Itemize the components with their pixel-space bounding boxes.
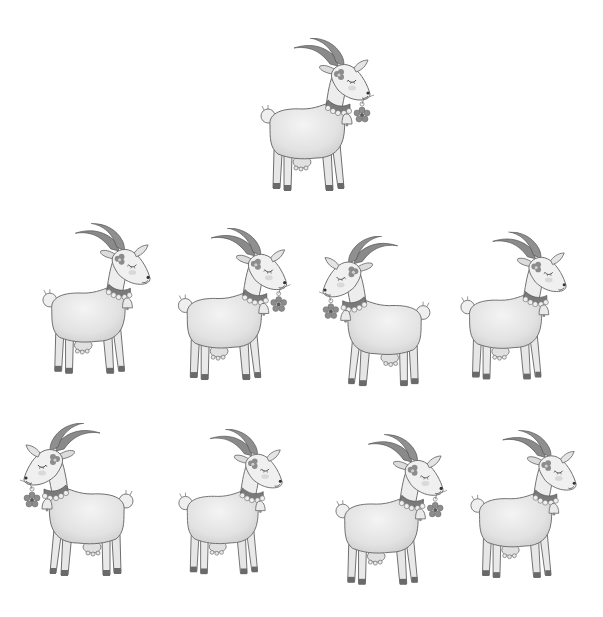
goat-row2-3 xyxy=(333,433,447,591)
goat-row1-4 xyxy=(458,230,570,386)
goat-icon xyxy=(20,423,136,581)
goat-icon xyxy=(468,428,580,585)
goat-icon xyxy=(40,222,154,380)
goat-icon xyxy=(318,236,434,391)
goat-icon xyxy=(175,228,291,385)
goat-icon xyxy=(258,38,374,196)
goat-icon xyxy=(176,425,286,583)
goat-reference xyxy=(258,38,374,196)
goat-icon xyxy=(333,433,447,591)
goat-row1-1 xyxy=(40,222,154,380)
goat-icon xyxy=(458,230,570,386)
goat-row1-3 xyxy=(318,236,434,391)
goat-row2-2 xyxy=(176,425,286,583)
goat-row2-4 xyxy=(468,428,580,585)
goat-row2-1 xyxy=(20,423,136,581)
goat-row1-2 xyxy=(175,228,291,385)
